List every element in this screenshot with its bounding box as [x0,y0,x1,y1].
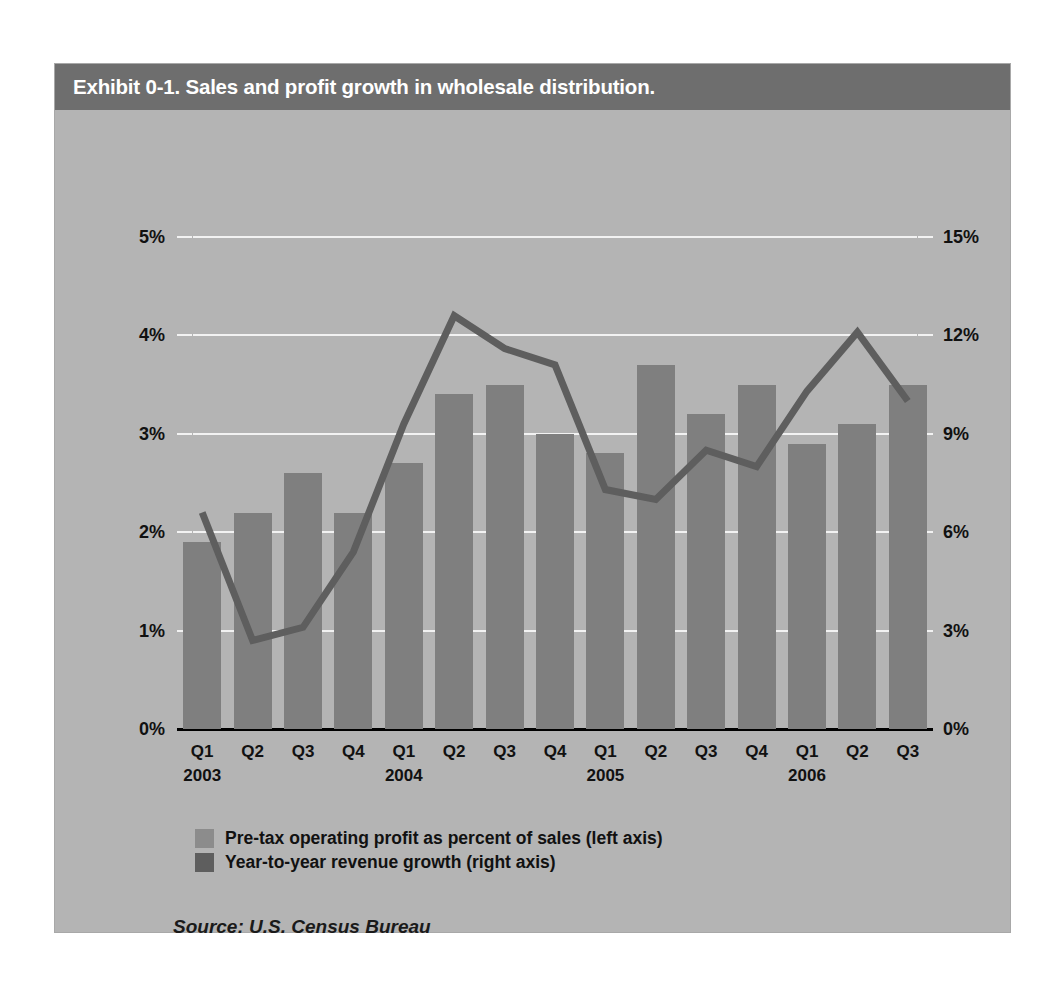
y-axis-right-tick-label: 15% [943,227,979,248]
x-axis-quarter-label: Q3 [493,742,516,762]
x-axis-quarter-label: Q3 [292,742,315,762]
chart-legend: Pre-tax operating profit as percent of s… [195,828,663,876]
exhibit-panel: Exhibit 0-1. Sales and profit growth in … [55,64,1010,932]
legend-item: Year-to-year revenue growth (right axis) [195,852,663,873]
legend-swatch [195,829,214,848]
y-axis-right-tick-label: 12% [943,325,979,346]
page-title: Exhibit 0-1. Sales and profit growth in … [73,75,655,99]
x-axis-year-label: 2006 [788,766,826,786]
revenue-growth-line [202,316,908,641]
legend-swatch [195,853,214,872]
x-axis-quarter-label: Q3 [695,742,718,762]
legend-item: Pre-tax operating profit as percent of s… [195,828,663,849]
y-axis-right-tick-label: 6% [943,522,969,543]
x-axis-quarter-label: Q3 [896,742,919,762]
x-axis-quarter-label: Q1 [594,742,617,762]
x-axis-quarter-label: Q1 [191,742,214,762]
y-axis-left-tick-label: 4% [139,325,165,346]
chart-plot-area: 0%1%2%3%4%5% 0%3%6%9%12%15% Q1Q2Q3Q4Q1Q2… [55,110,1010,932]
y-axis-left-tick-label: 1% [139,620,165,641]
x-axis-quarter-label: Q2 [241,742,264,762]
exhibit-title-bar: Exhibit 0-1. Sales and profit growth in … [55,64,1010,110]
x-axis-year-label: 2005 [586,766,624,786]
y-axis-left-tick-label: 2% [139,522,165,543]
x-axis-quarter-label: Q4 [342,742,365,762]
y-axis-left-tick-label: 0% [139,719,165,740]
y-axis-right-tick-label: 0% [943,719,969,740]
source-note: Source: U.S. Census Bureau [173,916,431,938]
x-axis-quarter-label: Q2 [644,742,667,762]
x-axis-quarter-label: Q4 [544,742,567,762]
y-axis-right-tick-label: 3% [943,620,969,641]
x-axis-year-label: 2003 [183,766,221,786]
legend-label: Year-to-year revenue growth (right axis) [225,852,556,873]
x-axis-quarter-label: Q1 [392,742,415,762]
x-axis-year-label: 2004 [385,766,423,786]
legend-label: Pre-tax operating profit as percent of s… [225,828,663,849]
line-series [55,110,1010,932]
y-axis-left-tick-label: 5% [139,227,165,248]
x-axis-quarter-label: Q1 [796,742,819,762]
x-axis-quarter-label: Q2 [846,742,869,762]
y-axis-left-tick-label: 3% [139,423,165,444]
y-axis-right-tick-label: 9% [943,423,969,444]
x-axis-quarter-label: Q2 [443,742,466,762]
x-axis-quarter-label: Q4 [745,742,768,762]
